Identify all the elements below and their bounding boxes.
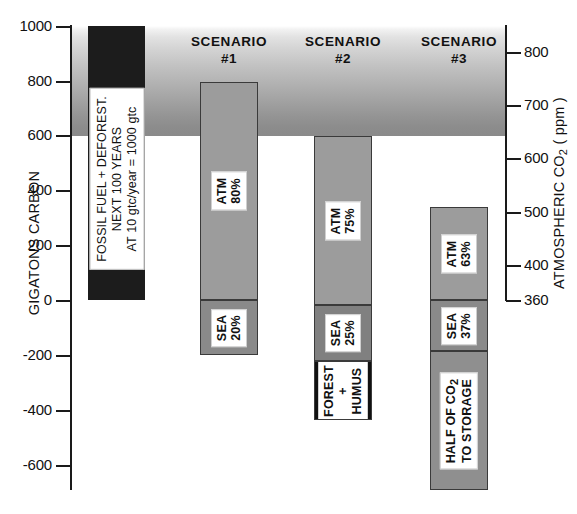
left-axis-title: GIGATONS CARBON (26, 153, 42, 333)
scenario-2-title-line1: SCENARIO (283, 34, 403, 51)
right-axis-title: ATMOSPHERIC CO2 ( ppm ) (551, 99, 569, 289)
left-tick-label--200: -200 (4, 346, 52, 363)
right-axis-title-unit: ( ppm ) (551, 97, 567, 149)
right-tick-label-360: 360 (524, 291, 548, 308)
right-tick-700 (506, 105, 521, 107)
left-tick--600 (56, 465, 71, 467)
scenario-3-atm-label-line2: 63% (459, 240, 473, 267)
scenario-1-segment-atm: ATM 80% (200, 82, 258, 300)
scenario-3-title-line1: SCENARIO (399, 34, 519, 51)
scenario-1-title-line2: #1 (169, 51, 289, 68)
right-tick-500 (506, 212, 521, 214)
right-tick-label-600: 600 (524, 149, 548, 166)
scenario-1-atm-label-line2: 80% (229, 178, 243, 205)
scenario-2-title: SCENARIO #2 (283, 34, 403, 68)
scenario-3-storage-label-subscript: 2 (448, 378, 460, 384)
scenario-2-sea-label-line1: SEA (329, 320, 343, 346)
source-emissions-bar: FOSSIL FUEL + DEFOREST. NEXT 100 YEARS A… (88, 26, 145, 300)
left-tick-800 (56, 81, 71, 83)
scenario-1-bar: ATM 80% SEA 20% (200, 82, 258, 355)
scenario-3-storage-label-text: HALF OF CO (444, 384, 458, 462)
scenario-2-atm-label-line1: ATM (329, 207, 343, 234)
left-tick-600 (56, 135, 71, 137)
left-tick-1000 (56, 26, 71, 28)
carbon-scenarios-chart: 1000 800 600 400 200 0 -200 -400 -600 80… (0, 0, 577, 514)
scenario-3-atm-label-line1: ATM (445, 240, 459, 267)
right-tick-label-500: 500 (524, 203, 548, 220)
right-axis-title-main: ATMOSPHERIC CO (551, 155, 567, 289)
scenario-3-storage-label: HALF OF CO2 TO STORAGE (440, 372, 478, 469)
source-label-line3: AT 10 gtc/year = 1000 gtc (124, 97, 139, 263)
scenario-2-segment-sea: SEA 25% (314, 305, 372, 361)
right-tick-label-800: 800 (524, 43, 548, 60)
scenario-1-atm-label-line1: ATM (215, 178, 229, 205)
scenario-2-segment-forest-humus: FOREST + HUMUS (314, 361, 372, 420)
scenario-2-segment-atm: ATM 75% (314, 136, 372, 305)
scenario-2-sea-label: SEA 25% (325, 314, 361, 352)
scenario-3-title-line2: #3 (399, 51, 519, 68)
right-tick-400 (506, 265, 521, 267)
scenario-3-sea-label: SEA 37% (441, 306, 477, 344)
left-tick-label--400: -400 (4, 401, 52, 418)
scenario-1-sea-label: SEA 20% (211, 308, 247, 346)
scenario-1-atm-label: ATM 80% (211, 172, 247, 211)
left-tick-0 (56, 300, 71, 302)
scenario-2-bar: ATM 75% SEA 25% FOREST + HUMUS (314, 136, 372, 420)
scenario-3-storage-label-line2: TO STORAGE (460, 378, 474, 463)
scenario-2-title-line2: #2 (283, 51, 403, 68)
left-tick-200 (56, 245, 71, 247)
scenario-3-sea-label-line2: 37% (459, 312, 473, 338)
scenario-2-forest-humus-label: FOREST + HUMUS (318, 361, 368, 420)
scenario-3-segment-sea: SEA 37% (430, 300, 488, 351)
source-label-line2: NEXT 100 YEARS (109, 97, 124, 263)
scenario-2-forest-label-line3: HUMUS (350, 365, 364, 417)
scenario-3-atm-label: ATM 63% (441, 234, 477, 273)
source-label-line1: FOSSIL FUEL + DEFOREST. (94, 97, 109, 263)
left-tick-400 (56, 190, 71, 192)
scenario-2-atm-label-line2: 75% (343, 207, 357, 234)
left-tick--200 (56, 355, 71, 357)
right-tick-600 (506, 158, 521, 160)
right-tick-label-400: 400 (524, 256, 548, 273)
left-axis-line (70, 25, 72, 490)
scenario-2-atm-label: ATM 75% (325, 201, 361, 240)
left-tick--400 (56, 410, 71, 412)
scenario-2-sea-label-line2: 25% (343, 320, 357, 346)
scenario-3-storage-label-line1: HALF OF CO2 (444, 378, 460, 463)
scenario-2-forest-label-line2: + (336, 365, 350, 417)
right-tick-label-700: 700 (524, 96, 548, 113)
left-tick-label--600: -600 (4, 456, 52, 473)
right-axis-title-subscript: 2 (557, 149, 569, 155)
scenario-1-title-line1: SCENARIO (169, 34, 289, 51)
scenario-3-segment-storage: HALF OF CO2 TO STORAGE (430, 351, 488, 490)
left-tick-label-1000: 1000 (4, 17, 52, 34)
scenario-2-forest-label-line1: FOREST (322, 365, 336, 417)
scenario-1-segment-sea: SEA 20% (200, 300, 258, 355)
source-emissions-label: FOSSIL FUEL + DEFOREST. NEXT 100 YEARS A… (89, 89, 144, 271)
scenario-3-segment-atm: ATM 63% (430, 207, 488, 300)
scenario-1-title: SCENARIO #1 (169, 34, 289, 68)
scenario-1-sea-label-line1: SEA (215, 314, 229, 340)
scenario-3-title: SCENARIO #3 (399, 34, 519, 68)
left-tick-label-800: 800 (4, 72, 52, 89)
right-tick-360 (506, 300, 521, 302)
scenario-3-bar: ATM 63% SEA 37% HALF OF CO2 TO STORAGE (430, 207, 488, 490)
left-tick-label-600: 600 (4, 126, 52, 143)
scenario-3-sea-label-line1: SEA (445, 312, 459, 338)
scenario-1-sea-label-line2: 20% (229, 314, 243, 340)
